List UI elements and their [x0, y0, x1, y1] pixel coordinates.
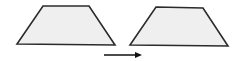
original-trapezoid	[17, 6, 115, 45]
translation-diagram	[0, 0, 240, 61]
translated-trapezoid	[130, 7, 228, 46]
translation-arrow-icon	[104, 52, 142, 58]
